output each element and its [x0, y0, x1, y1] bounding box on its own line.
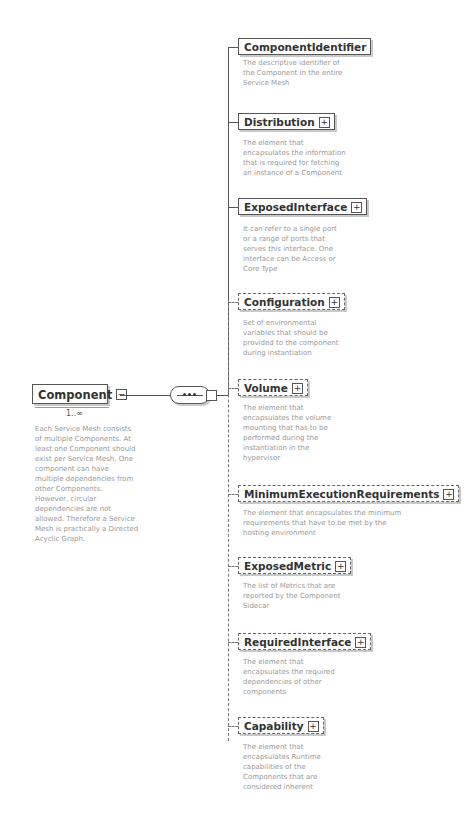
expand-icon[interactable]: + [292, 383, 303, 394]
componentidentifier-label: ComponentIdentifier [244, 41, 366, 53]
root-stack-shadow [35, 405, 109, 408]
branch-minimumexecutionrequirements [228, 494, 238, 495]
configuration-description: Set of environmentalvariables that shoul… [243, 318, 339, 358]
capability-label: Capability [244, 720, 304, 732]
sequence-connector [216, 395, 228, 396]
branch-volume [228, 388, 238, 389]
branch-exposedinterface [228, 207, 238, 208]
branch-distribution [228, 122, 238, 123]
exposedmetric-description: The list of Metrics that arereported by … [243, 581, 341, 611]
expand-icon[interactable]: + [443, 489, 454, 500]
branch-componentidentifier [228, 47, 238, 48]
capability-node[interactable]: Capability+ [238, 717, 324, 734]
branch-capability [228, 726, 238, 727]
branch-configuration [228, 302, 238, 303]
expand-icon[interactable]: + [355, 637, 366, 648]
root-connector [120, 395, 172, 396]
distribution-label: Distribution [244, 116, 315, 128]
exposedinterface-node[interactable]: ExposedInterface+ [238, 198, 367, 215]
configuration-label: Configuration [244, 296, 325, 308]
distribution-node[interactable]: Distribution+ [238, 113, 335, 130]
expand-icon[interactable]: + [335, 561, 346, 572]
expand-icon[interactable]: + [351, 202, 362, 213]
exposedmetric-node[interactable]: ExposedMetric+ [238, 557, 351, 574]
branch-exposedmetric [228, 566, 238, 567]
branch-requiredinterface [228, 642, 238, 643]
requiredinterface-label: RequiredInterface [244, 636, 351, 648]
requiredinterface-node[interactable]: RequiredInterface+ [238, 633, 371, 650]
component-label: Component [38, 388, 112, 402]
minimumexecutionrequirements-description: The element that encapsulates the minimu… [243, 508, 401, 538]
exposedinterface-description: It can refer to a single portor a range … [243, 224, 337, 274]
volume-description: The element thatencapsulates the volumem… [243, 403, 331, 463]
root-description: Each Service Mesh consistsof multiple Co… [35, 424, 160, 544]
sequence-icon[interactable] [170, 386, 210, 404]
expand-icon[interactable]: + [319, 117, 330, 128]
volume-label: Volume [244, 382, 288, 394]
minimumexecutionrequirements-label: MinimumExecutionRequirements [244, 488, 439, 500]
optional-spine [228, 300, 229, 741]
componentidentifier-node[interactable]: ComponentIdentifier [238, 38, 371, 55]
component-node[interactable]: Component− [32, 384, 108, 404]
minimumexecutionrequirements-node[interactable]: MinimumExecutionRequirements+ [238, 485, 459, 502]
volume-node[interactable]: Volume+ [238, 379, 308, 396]
exposedmetric-label: ExposedMetric [244, 560, 331, 572]
componentidentifier-description: The descriptive identifier ofthe Compone… [243, 58, 342, 88]
expand-icon[interactable]: + [329, 297, 340, 308]
capability-description: The element thatencapsulates Runtimecapa… [243, 742, 321, 792]
distribution-description: The element thatencapsulates the informa… [243, 138, 346, 178]
requiredinterface-description: The element thatencapsulates the require… [243, 657, 335, 697]
expand-icon[interactable]: + [308, 721, 319, 732]
configuration-node[interactable]: Configuration+ [238, 293, 345, 310]
exposedinterface-label: ExposedInterface [244, 201, 347, 213]
root-cardinality: 1..∞ [66, 409, 83, 418]
